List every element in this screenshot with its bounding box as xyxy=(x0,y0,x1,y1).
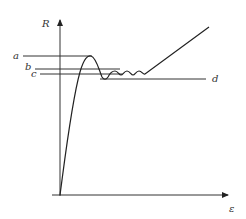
level-label-a: a xyxy=(13,50,19,61)
stress-strain-diagram: R ε a b c d xyxy=(0,0,246,219)
level-label-d: d xyxy=(212,73,218,84)
stress-strain-curve xyxy=(60,27,209,195)
y-axis-label: R xyxy=(41,18,50,29)
level-label-c: c xyxy=(31,68,37,79)
x-axis-label: ε xyxy=(229,203,234,214)
